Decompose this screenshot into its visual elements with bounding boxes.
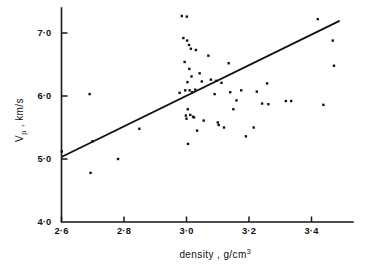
data-point bbox=[232, 108, 234, 110]
data-point bbox=[186, 81, 188, 83]
data-point bbox=[217, 124, 219, 126]
data-point bbox=[261, 102, 263, 104]
data-point bbox=[188, 44, 190, 46]
data-point bbox=[220, 82, 222, 84]
x-tick-label: 3·2 bbox=[242, 226, 256, 236]
data-point bbox=[207, 54, 209, 56]
data-point bbox=[202, 119, 204, 121]
x-axis-title: density , g/cm3 bbox=[179, 247, 251, 260]
data-point bbox=[217, 121, 219, 123]
data-point bbox=[333, 65, 335, 67]
data-point bbox=[184, 89, 186, 91]
data-point bbox=[189, 114, 191, 116]
data-point bbox=[190, 48, 192, 50]
data-point bbox=[138, 128, 140, 130]
data-point bbox=[185, 114, 187, 116]
data-point bbox=[240, 89, 242, 91]
data-point bbox=[89, 172, 91, 174]
x-tick-label: 2·8 bbox=[117, 226, 131, 236]
data-point bbox=[61, 150, 63, 152]
data-point bbox=[201, 80, 203, 82]
regression-line bbox=[62, 21, 339, 156]
data-point bbox=[317, 18, 319, 20]
y-tick-label: 5·0 bbox=[37, 154, 51, 164]
x-tick-label: 3·0 bbox=[179, 226, 193, 236]
data-point bbox=[229, 91, 231, 93]
data-point bbox=[213, 93, 215, 95]
data-point bbox=[186, 39, 188, 41]
data-point bbox=[195, 49, 197, 51]
data-point bbox=[88, 93, 90, 95]
plot-canvas: 2·62·83·03·23·44·05·06·07·0density , g/c… bbox=[0, 0, 367, 271]
scatter-plot-figure: 2·62·83·03·23·44·05·06·07·0density , g/c… bbox=[0, 0, 367, 271]
data-point bbox=[223, 126, 225, 128]
data-point bbox=[332, 39, 334, 41]
data-point bbox=[187, 108, 189, 110]
data-point bbox=[91, 140, 93, 142]
data-point bbox=[191, 91, 193, 93]
y-tick-label: 4·0 bbox=[37, 217, 51, 227]
data-point bbox=[252, 126, 254, 128]
data-point bbox=[117, 158, 119, 160]
y-tick-label: 7·0 bbox=[37, 28, 51, 38]
x-tick-label: 2·6 bbox=[54, 226, 68, 236]
data-point bbox=[245, 135, 247, 137]
y-tick-label: 6·0 bbox=[37, 91, 51, 101]
data-point bbox=[235, 99, 237, 101]
data-point bbox=[188, 89, 190, 91]
data-point bbox=[187, 143, 189, 145]
data-point bbox=[198, 72, 200, 74]
data-point bbox=[188, 68, 190, 70]
data-series bbox=[61, 15, 336, 174]
data-point bbox=[285, 100, 287, 102]
data-point bbox=[215, 80, 217, 82]
data-point bbox=[186, 15, 188, 17]
data-point bbox=[322, 104, 324, 106]
data-point bbox=[256, 90, 258, 92]
data-point bbox=[181, 15, 183, 17]
data-point bbox=[182, 37, 184, 39]
data-point bbox=[194, 89, 196, 91]
data-point bbox=[290, 100, 292, 102]
data-point bbox=[227, 62, 229, 64]
data-point bbox=[267, 103, 269, 105]
data-point bbox=[210, 78, 212, 80]
axis-frame bbox=[62, 8, 354, 222]
data-point bbox=[185, 117, 187, 119]
data-point bbox=[178, 92, 180, 94]
data-point bbox=[196, 129, 198, 131]
data-point bbox=[183, 61, 185, 63]
x-tick-label: 3·4 bbox=[304, 226, 319, 236]
data-point bbox=[266, 82, 268, 84]
data-point bbox=[190, 75, 192, 77]
y-axis-title: Vp , km/s bbox=[14, 98, 28, 142]
data-point bbox=[193, 116, 195, 118]
